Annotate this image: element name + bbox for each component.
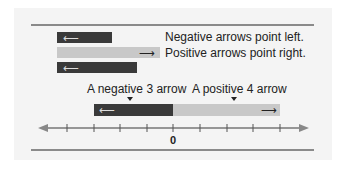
marker-negative-icon	[127, 97, 133, 101]
marker-positive-icon	[231, 97, 237, 101]
zero-label: 0	[170, 134, 176, 146]
arrowhead-right-icon	[299, 124, 309, 132]
arrowhead-left-icon	[38, 124, 48, 132]
number-line	[0, 0, 343, 175]
